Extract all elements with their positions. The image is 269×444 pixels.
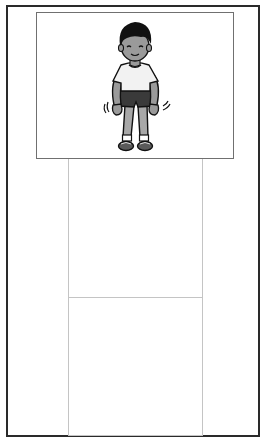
shoes — [119, 142, 153, 151]
illustration-frame — [36, 12, 234, 159]
answer-box-2[interactable] — [69, 298, 202, 435]
head — [119, 22, 152, 61]
boy-shaking-legs-illustration — [37, 13, 233, 158]
socks — [123, 135, 149, 141]
answer-box-stack — [68, 158, 203, 436]
legs — [123, 105, 148, 137]
hands — [112, 104, 158, 115]
answer-box-1[interactable] — [69, 159, 202, 298]
